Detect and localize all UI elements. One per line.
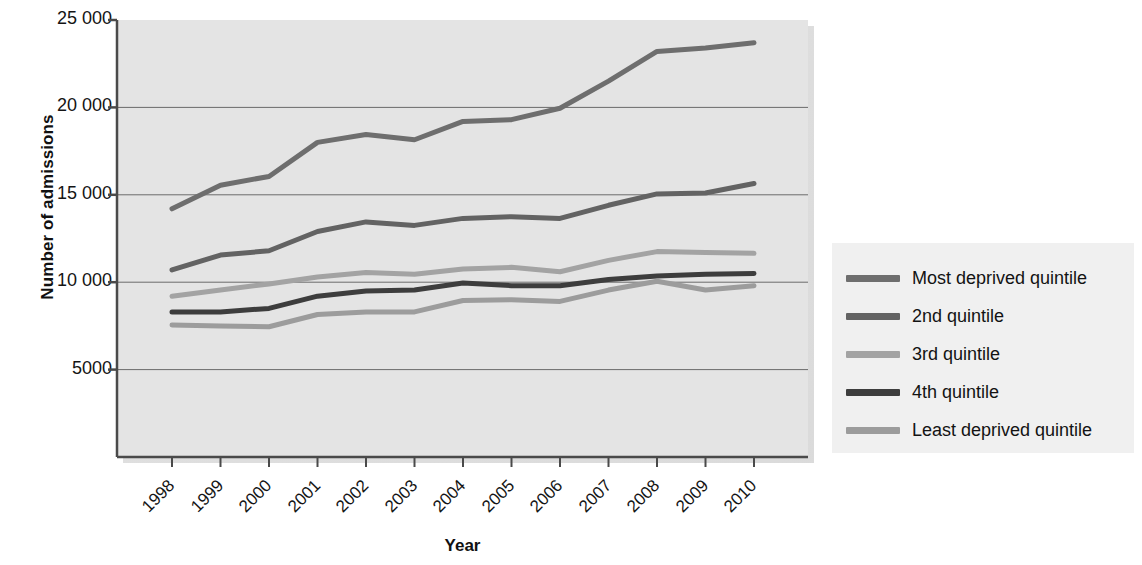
legend-swatch-icon [846,351,900,358]
legend-swatch-icon [846,275,900,282]
legend-item[interactable]: Least deprived quintile [846,411,1134,449]
chart-figure: Number of admissions 500010 00015 00020 … [0,0,1142,565]
x-axis-title: Year [117,536,808,556]
legend-item-label: Most deprived quintile [912,269,1087,287]
legend-swatch-icon [846,313,900,320]
legend-swatch-icon [846,389,900,396]
legend-swatch-icon [846,427,900,434]
legend-item-label: Least deprived quintile [912,421,1092,439]
legend-item[interactable]: 3rd quintile [846,335,1134,373]
legend-item[interactable]: 2nd quintile [846,297,1134,335]
chart-legend: Most deprived quintile2nd quintile3rd qu… [832,243,1134,453]
legend-item-label: 2nd quintile [912,307,1004,325]
legend-item[interactable]: Most deprived quintile [846,259,1134,297]
legend-item[interactable]: 4th quintile [846,373,1134,411]
legend-item-label: 4th quintile [912,383,999,401]
legend-item-label: 3rd quintile [912,345,1000,363]
